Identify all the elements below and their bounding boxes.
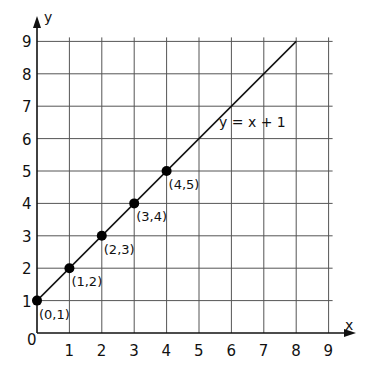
y-axis-arrow-icon xyxy=(33,16,41,28)
x-tick-label: 5 xyxy=(194,342,204,360)
point-label: (3,4) xyxy=(136,209,167,224)
x-tick-label: 0 xyxy=(27,331,37,349)
y-tick-label: 1 xyxy=(22,293,32,311)
y-tick-label: 9 xyxy=(22,33,32,51)
y-tick-label: 8 xyxy=(22,66,32,84)
y-axis-label: y xyxy=(44,9,52,25)
x-tick-label: 3 xyxy=(129,342,139,360)
x-tick-label: 1 xyxy=(64,342,74,360)
y-tick-label: 5 xyxy=(22,163,32,181)
data-point xyxy=(64,263,74,273)
data-point xyxy=(97,231,107,241)
data-point xyxy=(162,166,172,176)
x-tick-label: 9 xyxy=(324,342,334,360)
y-tick-label: 4 xyxy=(22,195,32,213)
point-label: (1,2) xyxy=(71,274,102,289)
x-tick-label: 2 xyxy=(97,342,107,360)
coordinate-grid-chart: 0123456789123456789 (0,1)(1,2)(2,3)(3,4)… xyxy=(0,0,375,377)
plot-series: (0,1)(1,2)(2,3)(3,4)(4,5) xyxy=(32,41,296,321)
data-point xyxy=(129,198,139,208)
y-tick-label: 7 xyxy=(22,98,32,116)
point-label: (0,1) xyxy=(39,307,70,322)
y-tick-label: 2 xyxy=(22,260,32,278)
data-point xyxy=(32,296,42,306)
x-tick-label: 4 xyxy=(162,342,172,360)
point-label: (4,5) xyxy=(169,177,200,192)
point-label: (2,3) xyxy=(104,242,135,257)
y-tick-label: 6 xyxy=(22,131,32,149)
x-tick-label: 6 xyxy=(226,342,236,360)
y-tick-label: 3 xyxy=(22,228,32,246)
x-axis-label: x xyxy=(345,317,353,333)
equation-label: y = x + 1 xyxy=(219,114,286,130)
x-tick-label: 8 xyxy=(291,342,301,360)
x-tick-label: 7 xyxy=(259,342,269,360)
